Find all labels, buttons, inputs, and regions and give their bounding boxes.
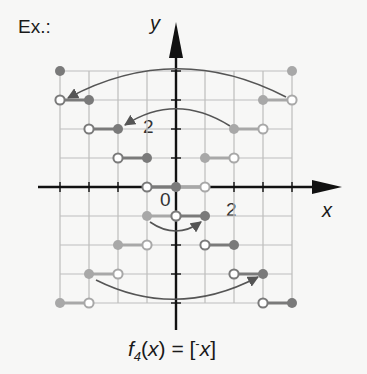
formula-eq: ) = [	[159, 337, 196, 360]
formula-subscript: 4	[134, 349, 141, 364]
function-formula: f4(x) = [-x]	[128, 336, 216, 364]
axes	[38, 22, 342, 330]
formula-close: ]	[210, 337, 216, 360]
coordinate-plane	[0, 0, 367, 374]
formula-var: x	[148, 337, 159, 360]
formula-var2: x	[200, 337, 211, 360]
